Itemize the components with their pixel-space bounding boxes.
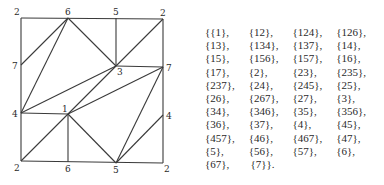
set-item: {17}, (205, 66, 249, 79)
edge-c3-tr (116, 19, 163, 66)
set-item: {457}, (205, 132, 249, 145)
vertex-label-bl: 2 (14, 163, 20, 173)
vertex-label-l7: 7 (12, 61, 18, 71)
set-item: {67}, (205, 158, 251, 171)
edge-r7-b5 (116, 67, 163, 163)
set-item: {134}, (249, 39, 293, 52)
set-item: {{1}, (205, 26, 249, 39)
vertex-label-l4: 4 (12, 109, 18, 119)
set-item: {5}, (205, 145, 249, 158)
set-item: {23}, (293, 66, 337, 79)
vertex-label-b5: 5 (113, 165, 119, 175)
set-item: {156}, (249, 52, 293, 65)
set-row: {34},{346},{35},{356}, (205, 105, 380, 118)
set-item: {36}, (205, 118, 249, 131)
diagram-vertex-labels: 26527374142652 (12, 7, 172, 175)
set-item: {34}, (205, 105, 249, 118)
set-item: {137}, (293, 39, 337, 52)
triangulation-diagram: 26527374142652 (0, 0, 190, 185)
edge-c1-bl (21, 114, 68, 161)
edge-r7-c1 (68, 67, 163, 114)
set-item: {124}, (293, 26, 337, 39)
edge-tl-tr (21, 18, 163, 19)
set-row: {67},{7}}. (205, 158, 380, 171)
edge-c3-c1 (68, 66, 116, 114)
set-item: {237}, (205, 79, 249, 92)
vertex-label-t6: 6 (65, 7, 71, 17)
set-item: {47}, (336, 132, 380, 145)
vertex-label-tr: 2 (160, 8, 166, 18)
set-item: {126}, (336, 26, 380, 39)
set-item: {356}, (336, 105, 380, 118)
set-row: {237},{24},{245},{25}, (205, 79, 380, 92)
edge-c3-r7 (116, 66, 163, 67)
edge-b5-r4 (116, 115, 163, 163)
set-item: {26}, (205, 92, 249, 105)
vertex-label-t5: 5 (113, 7, 119, 17)
set-item: {25}, (336, 79, 380, 92)
vertex-label-b6: 6 (65, 164, 71, 174)
set-item: {346}, (249, 105, 293, 118)
set-item: {15}, (205, 52, 249, 65)
vertex-label-r4: 4 (166, 111, 172, 121)
vertex-label-tl: 2 (14, 7, 20, 17)
set-item: {157}, (293, 52, 337, 65)
edge-t6-l4 (21, 18, 68, 113)
set-item: {35}, (293, 105, 337, 118)
edge-br-bl (21, 161, 163, 163)
vertex-label-br: 2 (164, 164, 170, 174)
set-item: {37}, (249, 118, 293, 131)
set-item: {57}, (293, 145, 337, 158)
set-row: {17},{2},{23},{235}, (205, 66, 380, 79)
set-row: {26},{267},{27},{3}, (205, 92, 380, 105)
set-item: {56}, (249, 145, 293, 158)
edge-t6-l7 (21, 18, 68, 65)
edge-c1-b5 (68, 114, 116, 163)
set-list: {{1},{12},{124},{126},{13},{134},{137},{… (205, 26, 380, 171)
set-row: {5},{56},{57},{6}, (205, 145, 380, 158)
set-row: {457},{46},{467},{47}, (205, 132, 380, 145)
set-item: {467}, (293, 132, 337, 145)
set-item: {45}, (336, 118, 380, 131)
set-row: {36},{37},{4},{45}, (205, 118, 380, 131)
set-item: {7}}. (251, 158, 297, 171)
set-item: {16}, (336, 52, 380, 65)
set-item: {46}, (249, 132, 293, 145)
set-item: {27}, (293, 92, 337, 105)
vertex-label-r7: 7 (166, 63, 172, 73)
set-item: {245}, (293, 79, 337, 92)
set-item: {2}, (249, 66, 293, 79)
set-row: {13},{134},{137},{14}, (205, 39, 380, 52)
vertex-label-c1: 1 (62, 104, 68, 114)
edge-c3-l4 (21, 66, 116, 113)
set-item: {12}, (249, 26, 293, 39)
set-item: {3}, (336, 92, 380, 105)
set-item: {14}, (336, 39, 380, 52)
set-item: {4}, (293, 118, 337, 131)
set-item: {235}, (336, 66, 380, 79)
set-row: {{1},{12},{124},{126}, (205, 26, 380, 39)
diagram-edges (21, 18, 163, 163)
edge-l4-c1 (21, 113, 68, 114)
set-item: {267}, (249, 92, 293, 105)
set-item: {24}, (249, 79, 293, 92)
set-row: {15},{156},{157},{16}, (205, 52, 380, 65)
set-item: {13}, (205, 39, 249, 52)
set-item: {6}, (336, 145, 380, 158)
vertex-label-c3: 3 (117, 67, 123, 77)
edge-t6-c3 (68, 18, 116, 66)
